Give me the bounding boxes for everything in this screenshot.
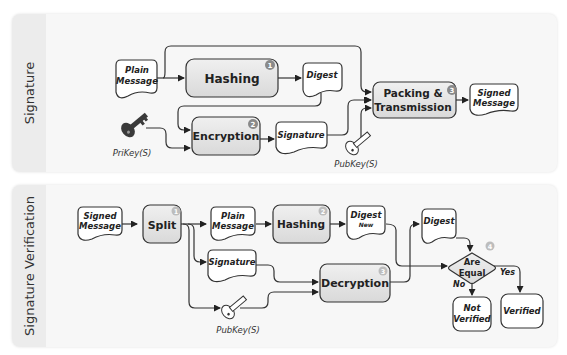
ver-digest-new: Digest New: [347, 206, 385, 239]
private-key-icon: [118, 108, 151, 140]
ver-split-step-badge: 1: [174, 208, 179, 216]
sig-signature: Signature: [276, 122, 327, 154]
ver-not-verified-line2: Verified: [453, 314, 491, 324]
sig-signature-label: Signature: [278, 130, 325, 140]
ver-digest-new-line1: Digest: [351, 210, 383, 220]
sig-public-key-label: PubKey(S): [334, 159, 377, 169]
sig-digest: Digest: [303, 63, 342, 97]
ver-plain-message-line1: Plain: [221, 211, 245, 221]
sig-packing-label-line2: Transmission: [374, 101, 451, 113]
ver-digest-label: Digest: [424, 216, 456, 226]
ver-hashing-process: Hashing 2: [273, 205, 330, 243]
ver-verified: Verified: [501, 294, 543, 328]
sig-signed-message: Signed Message: [470, 84, 518, 115]
ver-are-equal-decision: Are Equal 4: [449, 242, 496, 284]
ver-signature: Signature: [208, 250, 256, 282]
ver-digest: Digest: [422, 209, 456, 243]
sig-digest-label: Digest: [307, 70, 339, 80]
sig-packing-process: Packing & Transmission 3: [373, 82, 457, 118]
ver-decryption-step-badge: 3: [381, 268, 386, 276]
ver-are-equal-line1: Are: [464, 257, 481, 267]
ver-digest-new-line2: New: [359, 221, 374, 228]
ver-signature-label: Signature: [209, 257, 256, 267]
sig-plain-message-line2: Message: [116, 76, 158, 86]
private-key-label: PriKey(S): [113, 148, 152, 158]
ver-hashing-step-badge: 2: [321, 208, 326, 216]
ver-hashing-label: Hashing: [277, 218, 325, 230]
sig-packing-step-badge: 3: [450, 87, 455, 95]
ver-not-verified: Not Verified: [453, 297, 492, 331]
ver-signed-message-line1: Signed: [83, 211, 117, 221]
sig-packing-label-line1: Packing &: [383, 87, 442, 99]
ver-public-key-label: PubKey(S): [216, 325, 259, 335]
sig-hashing-label: Hashing: [204, 72, 259, 86]
ver-yes-label: Yes: [500, 268, 515, 277]
sig-encryption-process: Encryption 2: [192, 117, 260, 155]
sig-encryption-label: Encryption: [193, 130, 260, 143]
ver-no-label: No: [453, 280, 466, 289]
diagram-canvas: Plain Message Hashing 1 Digest Encryptio…: [0, 0, 567, 355]
sig-signed-message-line2: Message: [473, 98, 515, 108]
sig-signed-message-line1: Signed: [477, 88, 511, 98]
ver-signed-message: Signed Message: [78, 207, 122, 240]
ver-decryption-process: Decryption 3: [320, 264, 390, 302]
sig-encryption-step-badge: 2: [251, 121, 256, 129]
ver-plain-message: Plain Message: [211, 207, 255, 240]
sig-plain-message-line1: Plain: [125, 65, 149, 75]
ver-plain-message-line2: Message: [212, 221, 254, 231]
ver-public-key-icon: [219, 292, 250, 321]
ver-decryption-label: Decryption: [321, 277, 389, 290]
ver-not-verified-line1: Not: [463, 303, 481, 313]
ver-are-equal-step-badge: 4: [488, 243, 493, 251]
sig-hashing-process: Hashing 1: [186, 59, 278, 97]
sig-hashing-step-badge: 1: [268, 62, 273, 70]
ver-split-process: Split 1: [143, 205, 181, 243]
sig-plain-message: Plain Message: [116, 60, 158, 98]
ver-are-equal-line2: Equal: [459, 268, 486, 278]
ver-signed-message-line2: Message: [79, 221, 121, 231]
ver-split-label: Split: [148, 219, 177, 232]
ver-verified-label: Verified: [503, 306, 541, 316]
